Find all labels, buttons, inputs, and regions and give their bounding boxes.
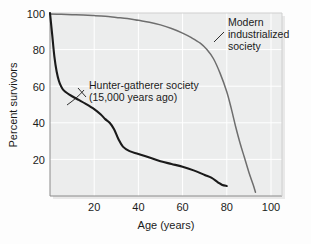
hunter-gatherer-annotation-line-1: Hunter-gatherer society: [89, 79, 199, 91]
x-axis-title: Age (years): [138, 219, 195, 231]
y-tick-label-80: 80: [33, 44, 45, 56]
x-tick-label-80: 80: [221, 201, 233, 213]
y-tick-label-40: 40: [33, 117, 45, 129]
x-tick-label-40: 40: [132, 201, 144, 213]
y-tick-label-100: 100: [27, 8, 45, 20]
y-tick-label-60: 60: [33, 81, 45, 93]
y-axis-title: Percent survivors: [7, 62, 19, 147]
x-tick-label-20: 20: [88, 201, 100, 213]
modern-society-annotation-line-3: society: [228, 40, 261, 52]
hunter-gatherer-annotation-line-2: (15,000 years ago): [89, 91, 177, 103]
x-tick-label-60: 60: [176, 201, 188, 213]
x-tick-label-100: 100: [262, 201, 280, 213]
modern-society-annotation-line-1: Modern: [228, 16, 264, 28]
chart-canvas: 100 80 60 40 20 20 40 60 80 100 Percent …: [0, 0, 311, 244]
survivorship-chart-figure: 100 80 60 40 20 20 40 60 80 100 Percent …: [0, 0, 311, 244]
modern-society-annotation-line-2: industrialized: [228, 28, 289, 40]
y-tick-label-20: 20: [33, 154, 45, 166]
